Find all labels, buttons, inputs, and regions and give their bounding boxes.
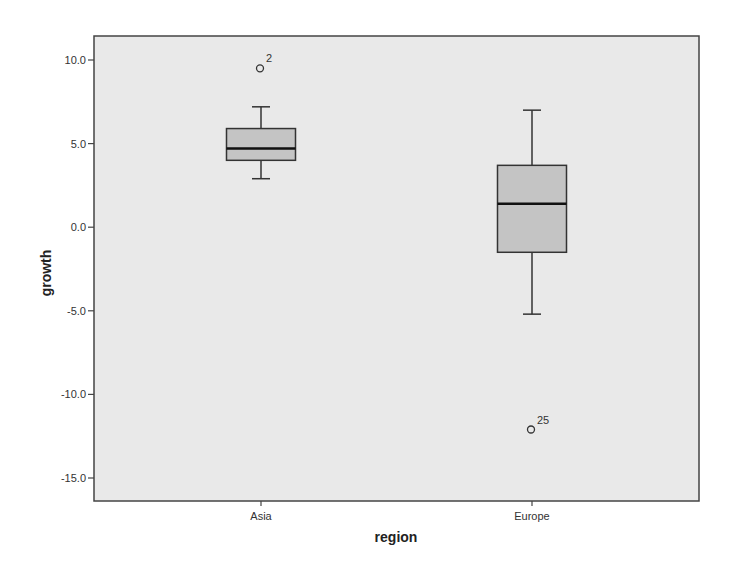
x-tick-label: Europe	[514, 510, 549, 522]
x-axis-title: region	[375, 529, 418, 545]
iqr-box	[227, 129, 296, 161]
boxplot-chart: 10.05.00.0-5.0-10.0-15.0 AsiaEurope 225 …	[0, 0, 733, 577]
x-tick-label: Asia	[250, 510, 272, 522]
outlier-label: 2	[266, 52, 272, 64]
y-tick-label: -10.0	[61, 388, 86, 400]
y-tick-label: -15.0	[61, 472, 86, 484]
y-axis-title: growth	[38, 250, 54, 297]
y-tick-label: 0.0	[71, 221, 86, 233]
y-tick-label: 10.0	[65, 54, 86, 66]
x-axis: AsiaEurope	[250, 501, 549, 522]
plot-area	[94, 36, 699, 501]
y-tick-label: 5.0	[71, 138, 86, 150]
iqr-box	[498, 165, 567, 252]
y-tick-label: -5.0	[67, 305, 86, 317]
y-axis: 10.05.00.0-5.0-10.0-15.0	[61, 54, 94, 484]
outlier-label: 25	[537, 414, 549, 426]
